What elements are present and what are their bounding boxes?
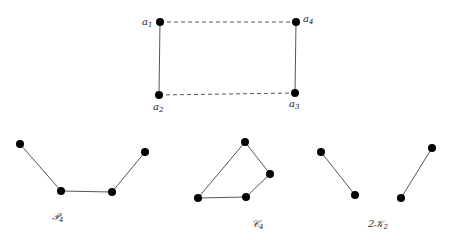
edge-C4 (245, 142, 270, 174)
vertex-a4 (292, 18, 300, 26)
edge-2K2 (401, 148, 432, 198)
edge-P4 (61, 191, 112, 192)
vertex-2K2 (428, 144, 436, 152)
vertex-P4 (57, 187, 65, 195)
edge-C4 (198, 142, 245, 198)
vertex-C4 (266, 170, 274, 178)
vertex-2K2 (397, 194, 405, 202)
vertex-2K2 (351, 191, 359, 199)
edge-C4 (246, 174, 270, 197)
vertex-C4 (241, 138, 249, 146)
edge-P4 (112, 152, 145, 192)
vertex-P4 (141, 148, 149, 156)
vertex-P4 (108, 188, 116, 196)
vertex-a1 (156, 18, 164, 26)
vertex-C4 (242, 193, 250, 201)
caption-2K2: 2𝒦2 (367, 218, 388, 231)
vertex-2K2 (317, 148, 325, 156)
vertex-a2 (155, 91, 163, 99)
vertex-P4 (16, 140, 24, 148)
vertex-label-a3: a3 (289, 98, 300, 111)
vertex-label-a4: a4 (303, 13, 313, 26)
solid-edge (295, 22, 296, 93)
edge-P4 (20, 144, 61, 191)
dashed-edge (159, 93, 295, 95)
edge-2K2 (321, 152, 355, 195)
vertex-a3 (291, 89, 299, 97)
vertex-label-a1: a1 (142, 16, 152, 29)
solid-edge (159, 22, 160, 95)
vertex-C4 (194, 194, 202, 202)
edge-C4 (198, 197, 246, 198)
vertex-label-a2: a2 (153, 101, 164, 114)
caption-C4: 𝒞4 (252, 218, 263, 231)
graph-figure: a1a4a2a3𝒫4𝒞42𝒦2 (0, 0, 454, 240)
caption-P4: 𝒫4 (52, 211, 63, 224)
